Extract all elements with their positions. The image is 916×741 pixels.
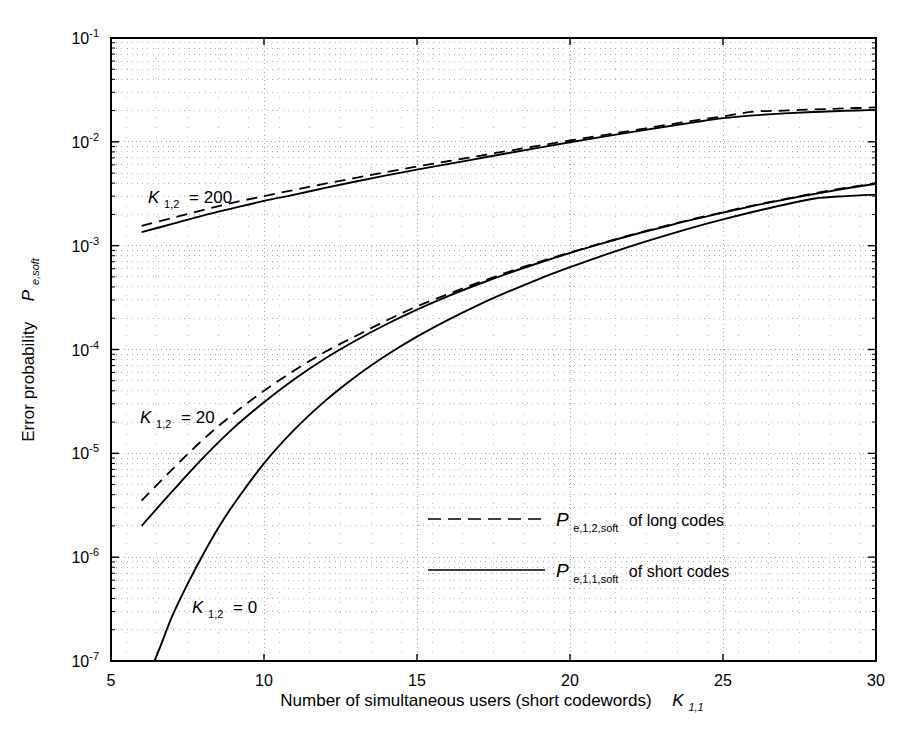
y-tick-label-1e-4: 10-4 (71, 339, 99, 359)
x-axis-title-sub: 1,1 (688, 701, 703, 713)
curve-layer (142, 107, 876, 661)
error-probability-chart: 5101520253010-110-210-310-410-510-610-7 … (0, 0, 916, 741)
figure-canvas: 5101520253010-110-210-310-410-510-610-7 … (0, 0, 916, 741)
y-axis-title-symbol: P (19, 289, 38, 301)
series-line-3 (142, 184, 876, 526)
y-tick-label-1e-1: 10-1 (71, 27, 99, 47)
series-line-1 (142, 110, 876, 232)
annotation-k20-symbol: K (140, 408, 152, 427)
x-axis-title-symbol: K (672, 691, 684, 710)
legend-short-text: of short codes (629, 563, 730, 580)
svg-text:K 1,2 = 0: K 1,2 = 0 (192, 598, 257, 622)
legend-long-sub: e,1,2,soft (573, 522, 618, 534)
x-tick-label-15: 15 (408, 672, 426, 689)
y-axis-title-main: Error probability (19, 321, 38, 441)
y-tick-label-1e-3: 10-3 (71, 235, 99, 255)
y-axis-title-sub: e,soft (29, 257, 41, 285)
annotation-k20-eq: = 20 (181, 408, 215, 427)
legend-entry-long-codes: P e,1,2,soft of long codes (556, 509, 724, 535)
grid-layer (111, 38, 876, 661)
annotation-k20-sub: 1,2 (156, 418, 171, 430)
svg-text:Number of simultaneous users: Number of simultaneous users (short code… (280, 691, 703, 713)
x-tick-label-30: 30 (867, 672, 885, 689)
annotation-k0-eq: = 0 (233, 598, 257, 617)
legend-long-symbol: P (556, 509, 569, 530)
legend-short-symbol: P (556, 560, 569, 581)
annotation-k0-symbol: K (192, 598, 204, 617)
svg-text:K 1,2 = 20: K 1,2 = 20 (140, 408, 215, 432)
annotation-k20: K 1,2 = 20 (140, 408, 215, 432)
legend: P e,1,2,soft of long codes P e,1,1,soft … (428, 509, 729, 586)
y-tick-label-1e-2: 10-2 (71, 131, 99, 151)
legend-entry-short-codes: P e,1,1,soft of short codes (556, 560, 729, 586)
series-line-4 (154, 195, 876, 661)
x-axis-title: Number of simultaneous users (short code… (280, 691, 703, 713)
svg-text:Error probability P: Error probability P e,soft (19, 257, 41, 442)
legend-short-sub: e,1,1,soft (573, 573, 618, 585)
y-tick-label-1e-6: 10-6 (71, 546, 99, 566)
annotation-k0: K 1,2 = 0 (192, 598, 257, 622)
x-tick-label-10: 10 (255, 672, 273, 689)
annotation-k200-sub: 1,2 (164, 198, 179, 210)
x-tick-label-5: 5 (107, 672, 116, 689)
x-tick-label-20: 20 (561, 672, 579, 689)
y-tick-label-1e-5: 10-5 (71, 442, 99, 462)
y-tick-label-1e-7: 10-7 (71, 650, 99, 670)
series-line-2 (142, 183, 876, 501)
annotation-k0-sub: 1,2 (208, 608, 223, 620)
legend-long-text: of long codes (629, 512, 724, 529)
x-axis-title-main: Number of simultaneous users (short code… (280, 691, 651, 710)
y-axis-title: Error probability P e,soft (19, 257, 41, 442)
annotation-k200: K 1,2 = 200 (148, 188, 232, 212)
x-tick-label-25: 25 (714, 672, 732, 689)
annotation-k200-eq: = 200 (189, 188, 232, 207)
annotation-k200-symbol: K (148, 188, 160, 207)
tick-labels: 5101520253010-110-210-310-410-510-610-7 (71, 27, 885, 689)
svg-text:K 1,2 = 200: K 1,2 = 200 (148, 188, 232, 212)
